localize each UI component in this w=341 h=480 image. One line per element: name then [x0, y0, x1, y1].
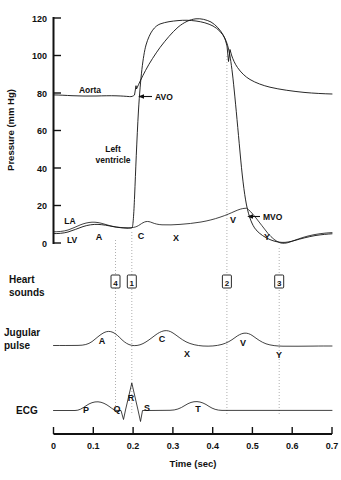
- heart-sound-label-3: 3: [277, 279, 282, 288]
- heart-sounds-label-line1: Heart: [9, 274, 35, 285]
- pressure-wave-v-label: V: [230, 215, 236, 225]
- x-axis-title: Time (sec): [170, 458, 217, 469]
- ecg-wave-p-label: P: [83, 405, 89, 415]
- x-tick-label-0-5: 0.5: [246, 441, 259, 451]
- y-tick-label-60: 60: [37, 126, 47, 136]
- avo-annotation: AVO: [138, 92, 173, 102]
- ecg-label: ECG: [16, 405, 38, 416]
- heart-sound-label-1: 1: [130, 279, 135, 288]
- ecg-wave-r-label: R: [128, 393, 135, 403]
- mvo-label: MVO: [263, 212, 283, 222]
- heart-sounds-panel: Heart sounds 4 1 2 3: [9, 274, 284, 298]
- left-ventricular-pressure-trace: [54, 20, 333, 242]
- wiggers-diagram-figure: 120 100 80 60 40 20 0 Pressure (mm Hg) A…: [0, 0, 341, 480]
- heart-sounds-label-line2: sounds: [9, 287, 45, 298]
- heart-sound-marker-1: 1: [127, 275, 136, 288]
- y-tick-label-100: 100: [32, 51, 47, 61]
- ecg-wave-s-label: S: [144, 403, 150, 413]
- x-tick-label-0-2: 0.2: [127, 441, 140, 451]
- y-tick-label-20: 20: [37, 201, 47, 211]
- x-tick-label-0-7: 0.7: [326, 441, 339, 451]
- jugular-wave-x-label: X: [184, 349, 190, 359]
- pressure-y-axis: 120 100 80 60 40 20 0 Pressure (mm Hg): [5, 14, 61, 249]
- jugular-wave-c-label: C: [159, 334, 166, 344]
- la-label: LA: [64, 216, 75, 226]
- x-tick-label-0-1: 0.1: [87, 441, 100, 451]
- y-tick-label-120: 120: [32, 14, 47, 24]
- jugular-pulse-label-line1: Jugular: [4, 327, 40, 338]
- jugular-wave-y-label: Y: [276, 350, 282, 360]
- mvo-annotation: MVO: [247, 212, 283, 222]
- jugular-pulse-trace: [54, 331, 333, 347]
- ecg-panel: ECG P Q R S T: [16, 383, 332, 422]
- pressure-wave-y-label: Y: [264, 232, 270, 242]
- jugular-wave-a-label: A: [99, 336, 106, 346]
- jugular-pulse-label-line2: pulse: [4, 340, 31, 351]
- y-axis-title: Pressure (mm Hg): [5, 89, 16, 171]
- left-ventricle-label-line2: ventricle: [96, 155, 131, 165]
- y-tick-label-80: 80: [37, 89, 47, 99]
- left-ventricle-label-line1: Left: [105, 144, 121, 154]
- heart-sound-label-2: 2: [225, 279, 230, 288]
- y-tick-label-0: 0: [42, 239, 47, 249]
- x-tick-label-0-4: 0.4: [206, 441, 219, 451]
- pressure-wave-x-label: X: [173, 233, 179, 243]
- x-tick-label-0-6: 0.6: [286, 441, 299, 451]
- pressure-wave-a-label: A: [96, 232, 103, 242]
- time-x-axis: 0 0.1 0.2 0.3 0.4 0.5 0.6 0.7 Time (sec): [51, 427, 338, 469]
- heart-sound-label-4: 4: [113, 279, 118, 288]
- heart-sound-marker-3: 3: [275, 275, 284, 288]
- ecg-trace: [54, 383, 333, 422]
- lv-label: LV: [67, 235, 78, 245]
- jugular-wave-v-label: V: [240, 338, 246, 348]
- avo-label: AVO: [155, 92, 173, 102]
- heart-sound-marker-2: 2: [222, 275, 231, 288]
- x-tick-label-0-3: 0.3: [167, 441, 180, 451]
- aorta-label: Aorta: [79, 85, 101, 95]
- ecg-wave-q-label: Q: [113, 404, 120, 414]
- y-tick-label-40: 40: [37, 164, 47, 174]
- heart-sound-marker-4: 4: [111, 275, 120, 288]
- pressure-wave-c-label: C: [138, 231, 145, 241]
- x-tick-label-0: 0: [51, 441, 56, 451]
- ecg-wave-t-label: T: [195, 404, 201, 414]
- jugular-pulse-panel: Jugular pulse A C X V Y: [4, 327, 332, 360]
